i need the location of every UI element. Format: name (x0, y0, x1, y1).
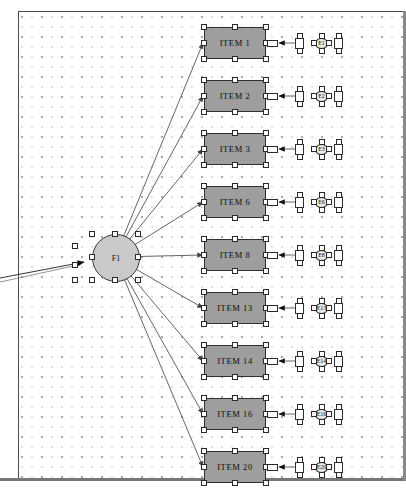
observed-1-handle-6[interactable] (232, 109, 238, 115)
error-term-handle-e2-c3[interactable] (319, 101, 325, 107)
loading-connector-1[interactable] (267, 93, 278, 100)
error-term-handle-e2-c2[interactable] (326, 93, 332, 99)
loading-connector-0[interactable] (267, 40, 278, 47)
error-handle-e14-0-0[interactable] (297, 351, 303, 357)
observed-8-handle-1[interactable] (232, 448, 238, 454)
error-handle-e20-2-1[interactable] (336, 472, 342, 478)
observed-5-handle-2[interactable] (263, 289, 269, 295)
observed-2-handle-0[interactable] (201, 130, 207, 136)
error-term-handle-e6-c0[interactable] (319, 192, 325, 198)
observed-3-handle-0[interactable] (201, 183, 207, 189)
error-handle-e2-2-0[interactable] (336, 86, 342, 92)
error-handle-e14-0-1[interactable] (297, 366, 303, 372)
observed-1-handle-5[interactable] (201, 109, 207, 115)
error-term-handle-e1-c3[interactable] (319, 48, 325, 54)
observed-1-handle-3[interactable] (201, 93, 207, 99)
error-handle-e14-2-1[interactable] (336, 366, 342, 372)
observed-variable-item-13[interactable]: ITEM 13 (204, 292, 266, 324)
observed-2-handle-2[interactable] (263, 130, 269, 136)
observed-6-handle-1[interactable] (232, 342, 238, 348)
error-term-handle-e20-c2[interactable] (326, 464, 332, 470)
error-term-handle-e16-c0[interactable] (319, 404, 325, 410)
observed-8-handle-3[interactable] (201, 464, 207, 470)
error-term-handle-e20-c3[interactable] (319, 472, 325, 478)
observed-1-handle-7[interactable] (263, 109, 269, 115)
observed-6-handle-5[interactable] (201, 374, 207, 380)
observed-0-handle-1[interactable] (232, 24, 238, 30)
error-handle-e14-2-0[interactable] (336, 351, 342, 357)
observed-4-handle-2[interactable] (263, 236, 269, 242)
error-handle-e16-0-1[interactable] (297, 419, 303, 425)
error-term-handle-e14-c0[interactable] (319, 351, 325, 357)
observed-5-handle-1[interactable] (232, 289, 238, 295)
error-handle-e1-0-1[interactable] (297, 48, 303, 54)
observed-7-handle-5[interactable] (201, 427, 207, 433)
observed-6-handle-7[interactable] (263, 374, 269, 380)
error-handle-e13-0-1[interactable] (297, 313, 303, 319)
error-handle-e1-2-1[interactable] (336, 48, 342, 54)
error-handle-e13-2-0[interactable] (336, 298, 342, 304)
exogenous-path-handle-2[interactable] (72, 277, 78, 283)
latent-factor-handle-0[interactable] (89, 231, 95, 237)
error-handle-e16-0-0[interactable] (297, 404, 303, 410)
observed-6-handle-6[interactable] (232, 374, 238, 380)
observed-1-handle-2[interactable] (263, 77, 269, 83)
error-handle-e3-0-0[interactable] (297, 139, 303, 145)
error-term-handle-e8-c3[interactable] (319, 260, 325, 266)
error-handle-e8-0-1[interactable] (297, 260, 303, 266)
observed-5-handle-6[interactable] (232, 321, 238, 327)
observed-1-handle-1[interactable] (232, 77, 238, 83)
observed-variable-item-16[interactable]: ITEM 16 (204, 398, 266, 430)
observed-4-handle-7[interactable] (263, 268, 269, 274)
loading-connector-7[interactable] (267, 411, 278, 418)
error-handle-e3-2-0[interactable] (336, 139, 342, 145)
observed-variable-item-6[interactable]: ITEM 6 (204, 186, 266, 218)
observed-variable-item-3[interactable]: ITEM 3 (204, 133, 266, 165)
error-term-handle-e16-c1[interactable] (311, 411, 317, 417)
observed-7-handle-3[interactable] (201, 411, 207, 417)
exogenous-path-handle-1[interactable] (72, 262, 78, 268)
observed-0-handle-7[interactable] (263, 56, 269, 62)
observed-variable-item-1[interactable]: ITEM 1 (204, 27, 266, 59)
observed-3-handle-6[interactable] (232, 215, 238, 221)
observed-2-handle-3[interactable] (201, 146, 207, 152)
error-handle-e13-0-0[interactable] (297, 298, 303, 304)
error-term-handle-e2-c1[interactable] (311, 93, 317, 99)
error-handle-e16-2-0[interactable] (336, 404, 342, 410)
error-handle-e1-2-0[interactable] (336, 33, 342, 39)
observed-4-handle-1[interactable] (232, 236, 238, 242)
observed-5-handle-5[interactable] (201, 321, 207, 327)
error-handle-e1-0-0[interactable] (297, 33, 303, 39)
error-handle-e3-2-1[interactable] (336, 154, 342, 160)
observed-8-handle-5[interactable] (201, 480, 207, 486)
error-handle-e2-2-1[interactable] (336, 101, 342, 107)
error-term-handle-e3-c2[interactable] (326, 146, 332, 152)
latent-factor-f1[interactable]: F1 (92, 234, 140, 282)
error-term-handle-e8-c1[interactable] (311, 252, 317, 258)
error-term-handle-e3-c0[interactable] (319, 139, 325, 145)
observed-6-handle-3[interactable] (201, 358, 207, 364)
error-term-handle-e20-c1[interactable] (311, 464, 317, 470)
error-term-handle-e13-c1[interactable] (311, 305, 317, 311)
error-term-handle-e3-c1[interactable] (311, 146, 317, 152)
loading-connector-3[interactable] (267, 199, 278, 206)
observed-variable-item-8[interactable]: ITEM 8 (204, 239, 266, 271)
observed-2-handle-7[interactable] (263, 162, 269, 168)
loading-connector-5[interactable] (267, 305, 278, 312)
observed-7-handle-2[interactable] (263, 395, 269, 401)
observed-2-handle-1[interactable] (232, 130, 238, 136)
error-term-handle-e1-c0[interactable] (319, 33, 325, 39)
latent-factor-handle-4[interactable] (135, 254, 141, 260)
latent-factor-handle-1[interactable] (112, 231, 118, 237)
observed-5-handle-0[interactable] (201, 289, 207, 295)
observed-3-handle-1[interactable] (232, 183, 238, 189)
observed-0-handle-0[interactable] (201, 24, 207, 30)
observed-3-handle-3[interactable] (201, 199, 207, 205)
error-handle-e13-2-1[interactable] (336, 313, 342, 319)
error-term-handle-e16-c3[interactable] (319, 419, 325, 425)
observed-4-handle-0[interactable] (201, 236, 207, 242)
observed-7-handle-6[interactable] (232, 427, 238, 433)
observed-4-handle-5[interactable] (201, 268, 207, 274)
latent-factor-handle-5[interactable] (89, 277, 95, 283)
error-term-handle-e14-c1[interactable] (311, 358, 317, 364)
